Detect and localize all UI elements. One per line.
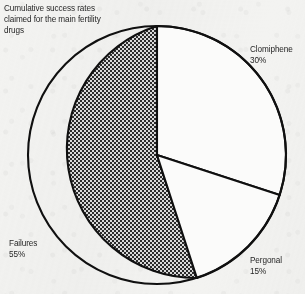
pie-label-clomiphene-name: Clomiphene bbox=[250, 45, 293, 54]
pie-label-pergonal-value: 15% bbox=[250, 267, 282, 278]
pie-label-clomiphene-value: 30% bbox=[250, 56, 293, 67]
pie-label-pergonal: Pergonal 15% bbox=[250, 256, 282, 277]
chart-page: Cumulative success rates claimed for the… bbox=[0, 0, 305, 294]
pie-label-failures-name: Failures bbox=[9, 239, 37, 248]
pie-label-failures: Failures 55% bbox=[9, 239, 37, 260]
pie-label-pergonal-name: Pergonal bbox=[250, 256, 282, 265]
pie-label-failures-value: 55% bbox=[9, 250, 37, 261]
pie-label-clomiphene: Clomiphene 30% bbox=[250, 45, 293, 66]
